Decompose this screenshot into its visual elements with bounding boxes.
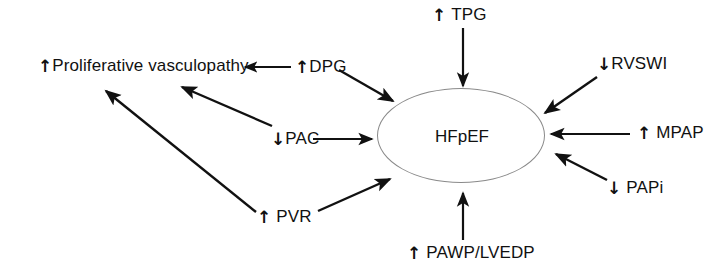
edge-papi-to-hfpef [556, 154, 607, 180]
up-arrow-icon: ↑ [432, 5, 446, 25]
center-node-label: HFpEF [378, 89, 546, 184]
node-proliferative-vasculopathy: ↑Proliferative vasculopathy [38, 56, 249, 76]
edge-pac-to-proliferative-vasculopathy [182, 87, 272, 126]
node-label-text: RVSWI [611, 54, 667, 73]
down-arrow-icon: ↓ [607, 178, 621, 198]
down-arrow-icon: ↓ [597, 54, 611, 74]
up-arrow-icon: ↑ [38, 56, 52, 76]
node-tpg: ↑TPG [432, 5, 487, 25]
node-mpap: ↑MPAP [637, 123, 704, 143]
node-label-text: PAC [285, 129, 319, 148]
node-label-text: DPG [309, 57, 346, 76]
node-label-text: Proliferative vasculopathy [52, 56, 248, 75]
node-pvr: ↑PVR [257, 207, 312, 227]
center-node-hfpef: HFpEF [377, 88, 545, 183]
node-label-text: PAWP/LVEDP [426, 243, 534, 262]
arrow-layer [0, 0, 724, 275]
node-papi: ↓PAPi [607, 178, 663, 198]
node-pac: ↓PAC [271, 129, 319, 149]
node-label-text: TPG [451, 5, 486, 24]
up-arrow-icon: ↑ [637, 123, 651, 143]
node-dpg: ↑DPG [295, 57, 347, 77]
up-arrow-icon: ↑ [295, 57, 309, 77]
node-label-text: MPAP [656, 123, 703, 142]
down-arrow-icon: ↓ [271, 129, 285, 149]
up-arrow-icon: ↑ [407, 243, 421, 263]
hfpef-concept-diagram: HFpEF ↑Proliferative vasculopathy ↑DPG ↑… [0, 0, 724, 275]
node-pawp-lvedp: ↑PAWP/LVEDP [407, 243, 535, 263]
node-label-text: PAPi [626, 178, 663, 197]
node-label-text: PVR [276, 207, 311, 226]
up-arrow-icon: ↑ [257, 207, 271, 227]
edge-rvswi-to-hfpef [545, 77, 597, 113]
node-rvswi: ↓RVSWI [597, 54, 667, 74]
